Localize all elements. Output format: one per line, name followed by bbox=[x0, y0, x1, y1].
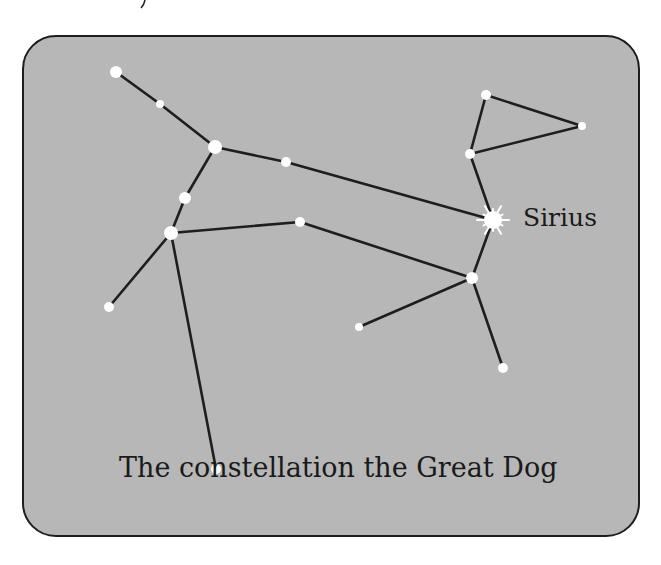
constellation-line bbox=[300, 222, 472, 278]
star-icon bbox=[481, 90, 491, 100]
constellation-line bbox=[215, 147, 286, 162]
star-icon bbox=[355, 323, 363, 331]
star-icon bbox=[104, 302, 114, 312]
constellation-line bbox=[109, 233, 171, 307]
star-icon bbox=[466, 272, 478, 284]
constellation-line bbox=[171, 233, 216, 469]
constellation-line bbox=[470, 95, 486, 154]
caption: The constellation the Great Dog bbox=[119, 452, 557, 483]
constellation-line bbox=[472, 220, 493, 278]
star-icon bbox=[208, 140, 222, 154]
constellation-line bbox=[470, 154, 493, 220]
constellation-lines bbox=[109, 72, 582, 469]
star-icon bbox=[465, 149, 475, 159]
star-icon bbox=[156, 100, 164, 108]
constellation-line bbox=[171, 222, 300, 233]
sirius-star-icon bbox=[477, 206, 509, 234]
constellation-line bbox=[472, 278, 503, 368]
constellation-stars bbox=[104, 66, 586, 474]
constellation-line bbox=[470, 126, 582, 154]
star-icon bbox=[498, 363, 508, 373]
sirius-label: Sirius bbox=[523, 203, 597, 232]
star-icon bbox=[578, 122, 586, 130]
constellation-line bbox=[116, 72, 160, 104]
star-icon bbox=[110, 66, 122, 78]
constellation-line bbox=[185, 147, 215, 198]
star-icon bbox=[179, 192, 191, 204]
constellation-line bbox=[486, 95, 582, 126]
constellation-line bbox=[359, 278, 472, 327]
star-icon bbox=[281, 157, 291, 167]
constellation-line bbox=[160, 104, 215, 147]
star-icon bbox=[164, 226, 178, 240]
star-icon bbox=[295, 217, 305, 227]
constellation-line bbox=[286, 162, 493, 220]
